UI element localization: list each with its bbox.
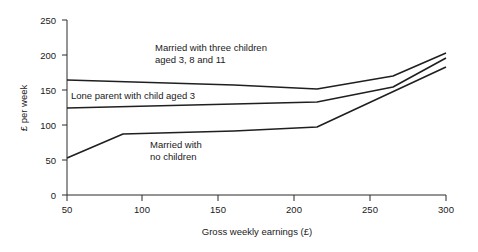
line-chart: 250 200 150 100 50 0 50 100 150 200 250 … — [0, 0, 478, 252]
x-tick-label-250: 250 — [362, 204, 378, 215]
chart-container: 250 200 150 100 50 0 50 100 150 200 250 … — [0, 0, 478, 252]
x-axis-title: Gross weekly earnings (£) — [202, 226, 312, 237]
x-tick-label-300: 300 — [438, 204, 454, 215]
series-line-married-no-children — [67, 67, 446, 158]
x-tick-label-200: 200 — [286, 204, 302, 215]
x-tick-label-50: 50 — [62, 204, 73, 215]
annotation-married-no-children-line2: no children — [150, 151, 196, 162]
x-tick-label-150: 150 — [210, 204, 226, 215]
annotation-married-no-children-line1: Married with — [150, 139, 202, 150]
y-tick-label-0: 0 — [51, 190, 56, 201]
y-tick-label-50: 50 — [45, 155, 56, 166]
y-tick-label-200: 200 — [40, 50, 56, 61]
y-tick-label-150: 150 — [40, 85, 56, 96]
y-tick-label-250: 250 — [40, 15, 56, 26]
annotation-married-three-children-line2: aged 3, 8 and 11 — [155, 54, 226, 65]
annotation-lone-parent-line1: Lone parent with child aged 3 — [71, 90, 195, 101]
y-tick-label-100: 100 — [40, 120, 56, 131]
annotation-married-three-children-line1: Married with three children — [155, 42, 267, 53]
x-tick-label-100: 100 — [134, 204, 150, 215]
y-axis-title: £ per week — [18, 85, 29, 132]
series-line-married-three-children — [67, 53, 446, 89]
